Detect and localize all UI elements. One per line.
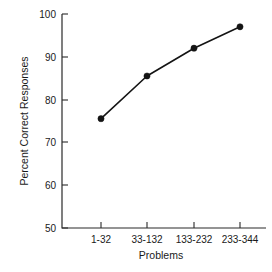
y-tick-label-70: 70 (45, 137, 57, 148)
y-tick-label-50: 50 (45, 223, 57, 234)
data-point-4 (237, 24, 243, 30)
chart-figure: 100 90 80 70 60 50 1-32 33-132 133-232 2… (0, 0, 272, 272)
y-tick-label-100: 100 (39, 9, 56, 20)
axis-lines (62, 14, 266, 228)
y-tick-label-60: 60 (45, 180, 57, 191)
y-tick-marks (62, 14, 68, 228)
y-axis-title: Percent Correct Responses (18, 57, 30, 186)
data-markers (98, 24, 243, 122)
data-series-line (101, 27, 240, 119)
x-tick-marks (101, 222, 240, 228)
data-point-2 (144, 73, 150, 79)
x-axis-title: Problems (139, 249, 183, 261)
x-tick-label-4: 233-344 (222, 234, 259, 245)
x-tick-label-2: 33-132 (131, 234, 163, 245)
y-tick-label-90: 90 (45, 52, 57, 63)
line-chart-plot: 100 90 80 70 60 50 1-32 33-132 133-232 2… (0, 0, 272, 272)
x-tick-label-3: 133-232 (176, 234, 213, 245)
y-tick-label-80: 80 (45, 95, 57, 106)
data-point-3 (191, 45, 197, 51)
data-point-1 (98, 116, 104, 122)
x-tick-label-1: 1-32 (91, 234, 111, 245)
